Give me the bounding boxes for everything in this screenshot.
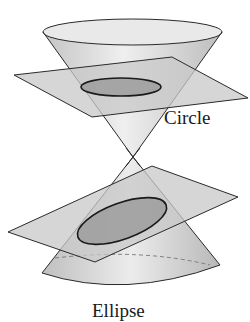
circle-section xyxy=(81,78,161,96)
circle-label: Circle xyxy=(164,107,210,129)
ellipse-label: Ellipse xyxy=(92,300,145,322)
